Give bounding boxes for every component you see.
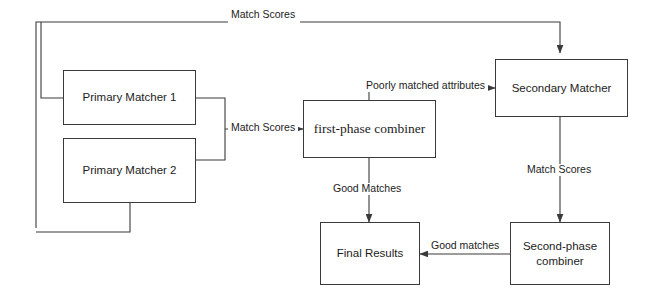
node-secondary-matcher[interactable]: Secondary Matcher: [495, 59, 628, 117]
edge-label-primary-match-scores: Match Scores: [228, 122, 298, 134]
node-first-phase-combiner[interactable]: first-phase combiner: [303, 100, 436, 158]
node-primary-matcher-2[interactable]: Primary Matcher 2: [63, 138, 196, 203]
edge-primary-1-out: [196, 98, 225, 129]
edge-label-secondary-match-scores: Match Scores: [524, 164, 594, 176]
node-secondary-matcher-label: Secondary Matcher: [508, 81, 616, 95]
node-second-phase-combiner-label: Second-phase combiner: [519, 239, 601, 267]
edge-label-top-match-scores: Match Scores: [228, 9, 298, 21]
edge-primary-2-feedback: [36, 203, 130, 232]
edge-label-good-matches-down: Good Matches: [330, 183, 404, 195]
flow-diagram: Primary Matcher 1 Primary Matcher 2 firs…: [0, 0, 652, 301]
node-primary-matcher-2-label: Primary Matcher 2: [79, 163, 181, 177]
edge-label-good-matches-left: Good matches: [428, 240, 502, 252]
edge-top-match-scores-right: [300, 22, 560, 53]
edge-label-poorly-matched-attributes: Poorly matched attributes: [363, 80, 488, 92]
node-primary-matcher-1-label: Primary Matcher 1: [79, 90, 181, 104]
node-primary-matcher-1[interactable]: Primary Matcher 1: [63, 70, 196, 125]
edge-feedback-into-primary-1: [41, 22, 63, 98]
node-second-phase-combiner[interactable]: Second-phase combiner: [510, 222, 610, 285]
edge-primary-2-out: [196, 129, 225, 160]
node-final-results-label: Final Results: [333, 246, 407, 260]
node-first-phase-combiner-label: first-phase combiner: [310, 121, 429, 137]
node-final-results[interactable]: Final Results: [320, 222, 420, 285]
